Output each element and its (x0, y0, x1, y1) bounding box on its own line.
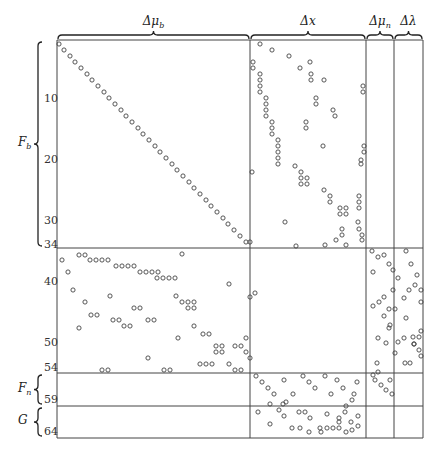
nonzero-marker (168, 368, 172, 372)
column-header-1: Δx (300, 14, 315, 28)
nonzero-marker (417, 348, 421, 352)
nonzero-marker (335, 378, 339, 382)
nonzero-marker (83, 253, 87, 257)
nonzero-marker (318, 426, 322, 430)
nonzero-marker (147, 138, 151, 142)
nonzero-marker (402, 336, 406, 340)
nonzero-marker (232, 228, 236, 232)
nonzero-marker (419, 300, 423, 304)
nonzero-marker (268, 402, 272, 406)
nonzero-marker (371, 373, 375, 377)
nonzero-marker (180, 300, 184, 304)
nonzero-marker (301, 374, 305, 378)
nonzero-marker (314, 102, 318, 106)
nonzero-marker (253, 291, 257, 295)
sparsity-diagram (0, 0, 446, 459)
nonzero-marker (106, 258, 110, 262)
nonzero-marker (254, 374, 258, 378)
nonzero-marker (244, 336, 248, 340)
nonzero-marker (266, 386, 270, 390)
nonzero-marker (155, 276, 159, 280)
nonzero-marker (362, 150, 366, 154)
nonzero-marker (158, 150, 162, 154)
nonzero-marker (136, 126, 140, 130)
nonzero-marker (370, 249, 374, 253)
nonzero-marker (328, 194, 332, 198)
nonzero-marker (146, 318, 150, 322)
nonzero-marker (89, 313, 93, 317)
nonzero-marker (340, 227, 344, 231)
nonzero-marker (186, 306, 190, 310)
nonzero-marker (411, 335, 415, 339)
nonzero-marker (57, 42, 61, 46)
row-tick-50: 50 (44, 336, 58, 349)
nonzero-marker (355, 380, 359, 384)
row-tick-40: 40 (44, 275, 58, 288)
nonzero-marker (329, 392, 333, 396)
nonzero-marker (220, 350, 224, 354)
nonzero-marker (251, 66, 255, 70)
nonzero-marker (357, 206, 361, 210)
nonzero-marker (264, 108, 268, 112)
nonzero-marker (338, 212, 342, 216)
nonzero-marker (293, 164, 297, 168)
nonzero-marker (360, 238, 364, 242)
nonzero-marker (156, 270, 160, 274)
nonzero-marker (419, 329, 423, 333)
nonzero-marker (403, 361, 407, 365)
nonzero-marker (173, 276, 177, 280)
nonzero-marker (373, 378, 377, 382)
nonzero-marker (264, 102, 268, 106)
nonzero-marker (174, 294, 178, 298)
nonzero-marker (314, 96, 318, 100)
nonzero-marker (407, 288, 411, 292)
nonzero-marker (404, 316, 408, 320)
nonzero-marker (299, 182, 303, 186)
nonzero-marker (356, 424, 360, 428)
nonzero-marker (132, 306, 136, 310)
column-header-0: Δμb (143, 14, 165, 30)
row-tick-54: 54 (44, 361, 58, 374)
nonzero-marker (276, 150, 280, 154)
nonzero-marker (258, 90, 262, 94)
nonzero-marker (305, 182, 309, 186)
nonzero-marker (388, 378, 392, 382)
nonzero-marker (287, 54, 291, 58)
nonzero-marker (341, 386, 345, 390)
nonzero-marker (357, 227, 361, 231)
nonzero-marker (62, 48, 66, 52)
nonzero-marker (308, 416, 312, 420)
nonzero-marker (144, 270, 148, 274)
column-header-2: Δμn (369, 14, 391, 30)
nonzero-marker (350, 428, 354, 432)
nonzero-marker (117, 318, 121, 322)
nonzero-marker (413, 283, 417, 287)
nonzero-marker (114, 264, 118, 268)
nonzero-marker (113, 102, 117, 106)
nonzero-marker (256, 410, 260, 414)
nonzero-marker (325, 426, 329, 430)
nonzero-marker (382, 295, 386, 299)
nonzero-marker (323, 243, 327, 247)
nonzero-marker (415, 273, 419, 277)
nonzero-marker (323, 374, 327, 378)
nonzero-marker (132, 264, 136, 268)
row-group-label-1: Fn (18, 381, 31, 397)
nonzero-marker (102, 90, 106, 94)
nonzero-marker (321, 144, 325, 148)
nonzero-marker (338, 206, 342, 210)
nonzero-marker (73, 60, 77, 64)
nonzero-marker (111, 318, 115, 322)
nonzero-marker (328, 200, 332, 204)
nonzero-marker (258, 42, 262, 46)
nonzero-marker (106, 368, 110, 372)
nonzero-marker (298, 66, 302, 70)
nonzero-marker (362, 144, 366, 148)
nonzero-marker (371, 270, 375, 274)
nonzero-marker (264, 114, 268, 118)
nonzero-marker (371, 304, 375, 308)
nonzero-marker (344, 212, 348, 216)
nonzero-marker (66, 270, 70, 274)
nonzero-marker (124, 114, 128, 118)
row-group-label-2: G (18, 413, 28, 427)
